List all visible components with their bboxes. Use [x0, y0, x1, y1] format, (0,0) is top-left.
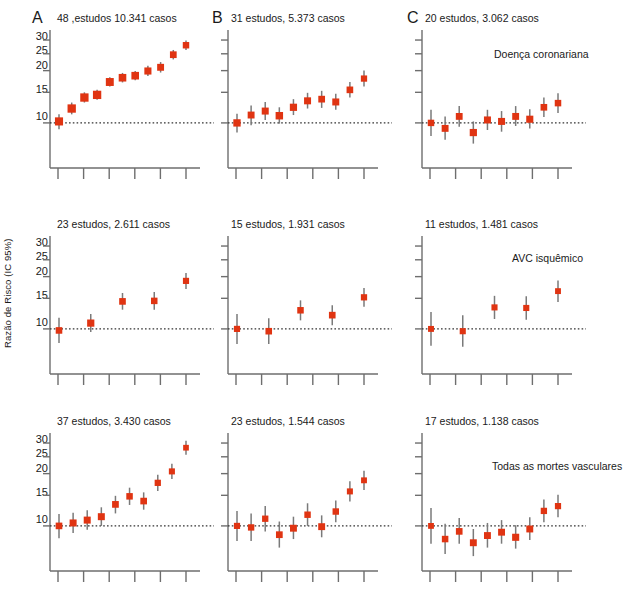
data-point-marker [470, 539, 477, 546]
panel-a1 [43, 30, 214, 179]
data-point-marker [329, 312, 336, 319]
data-point-marker [361, 294, 367, 300]
data-point-marker [126, 493, 133, 500]
data-point-marker [80, 93, 88, 101]
data-point-marker [484, 116, 491, 123]
data-point-marker [56, 523, 63, 530]
data-point-marker [290, 525, 297, 532]
data-point-marker [112, 501, 119, 508]
data-point-marker [55, 117, 63, 125]
data-point-marker [456, 528, 463, 535]
data-point-marker [428, 120, 434, 126]
data-point-marker [183, 445, 189, 451]
data-point-marker [361, 477, 367, 483]
data-point-marker [460, 328, 466, 334]
data-point-marker [347, 87, 354, 94]
data-point-marker [470, 129, 477, 136]
data-point-marker [428, 523, 434, 529]
data-point-marker [183, 42, 189, 48]
data-point-marker [318, 96, 325, 103]
data-point-marker [498, 118, 505, 125]
data-point-marker [119, 74, 127, 82]
data-point-marker [98, 513, 105, 520]
data-point-marker [157, 64, 164, 71]
data-point-marker [498, 529, 505, 536]
data-point-marker [70, 519, 77, 526]
plot-canvas [0, 0, 629, 605]
data-point-marker [140, 498, 147, 505]
panel-a3 [43, 433, 214, 582]
data-point-marker [119, 298, 126, 305]
data-point-marker [333, 508, 339, 514]
data-point-marker [491, 304, 497, 310]
data-point-marker [456, 113, 463, 120]
data-point-marker [155, 480, 161, 486]
data-point-marker [318, 523, 325, 530]
data-point-marker [233, 119, 240, 126]
data-point-marker [262, 516, 268, 522]
data-point-marker [555, 288, 561, 294]
data-point-marker [290, 104, 297, 111]
data-point-marker [304, 97, 311, 104]
data-point-marker [276, 531, 283, 538]
data-point-marker [170, 51, 177, 58]
data-point-marker [541, 508, 547, 514]
panel-b3 [221, 433, 392, 582]
data-point-marker [234, 326, 240, 332]
data-point-marker [512, 534, 519, 541]
data-point-marker [87, 319, 94, 326]
data-point-marker [297, 307, 304, 314]
data-point-marker [93, 91, 101, 99]
data-point-marker [144, 67, 151, 74]
data-point-marker [248, 524, 254, 530]
data-point-marker [442, 536, 449, 543]
data-point-marker [526, 526, 533, 533]
panel-b1 [221, 30, 392, 179]
data-point-marker [555, 503, 561, 509]
data-point-marker [526, 116, 533, 123]
data-point-marker [523, 305, 529, 311]
data-point-marker [265, 328, 272, 335]
data-point-marker [555, 100, 562, 107]
data-point-marker [56, 327, 63, 334]
data-point-marker [512, 113, 519, 120]
data-point-marker [484, 532, 491, 539]
data-point-marker [234, 523, 240, 529]
data-point-marker [68, 104, 76, 112]
data-point-marker [262, 108, 269, 115]
data-point-marker [428, 326, 434, 332]
data-point-marker [106, 78, 114, 86]
data-point-marker [276, 112, 283, 119]
panel-c2 [415, 236, 586, 385]
data-point-marker [361, 75, 367, 81]
data-point-marker [347, 488, 353, 494]
data-point-marker [151, 298, 158, 305]
panel-a2 [43, 236, 214, 385]
data-point-marker [169, 468, 175, 474]
panel-c3 [415, 433, 586, 582]
data-point-marker [442, 125, 449, 132]
data-point-marker [541, 104, 548, 111]
panel-b2 [221, 236, 392, 385]
panel-c1 [415, 30, 586, 179]
forest-plot-figure: Razão de Risco (IC 95%) A B C 48 ,estudo… [0, 0, 629, 605]
data-point-marker [84, 517, 91, 524]
data-point-marker [131, 72, 139, 80]
data-point-marker [304, 511, 310, 517]
data-point-marker [248, 112, 255, 119]
data-point-marker [332, 98, 339, 105]
data-point-marker [183, 278, 189, 284]
